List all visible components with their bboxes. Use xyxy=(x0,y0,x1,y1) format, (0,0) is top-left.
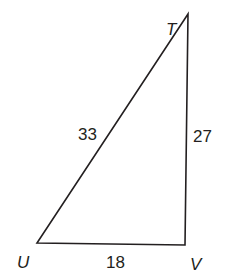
vertex-label-t: T xyxy=(166,20,178,39)
vertex-label-v: V xyxy=(190,255,203,274)
side-label-tv: 27 xyxy=(193,127,212,146)
vertex-label-u: U xyxy=(17,253,30,272)
triangle-diagram: T U V 33 27 18 xyxy=(0,0,226,277)
side-label-uv: 18 xyxy=(106,253,125,272)
side-label-tu: 33 xyxy=(78,125,97,144)
triangle-tuv xyxy=(37,14,188,245)
